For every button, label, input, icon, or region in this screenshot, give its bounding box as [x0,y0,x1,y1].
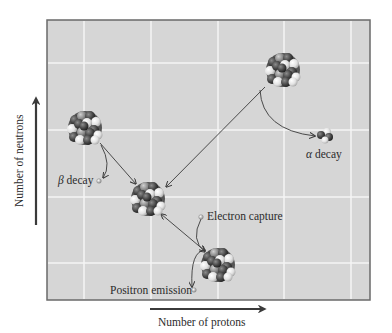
beta-decay-label: β decay [58,175,93,187]
electron-capture-label: Electron capture [207,211,283,223]
positron-emission-label: Positron emission [110,285,192,297]
x-axis-label: Number of protons [158,317,246,329]
diagram-canvas [0,0,392,333]
beta-decay-text: decay [64,174,94,186]
alpha-decay-label: α decay [306,149,342,161]
alpha-decay-text: decay [312,148,342,160]
positron-icon [192,288,197,293]
beta-particle-icon [97,179,102,184]
decay-diagram: β decay α decay Electron capture Positro… [0,0,392,333]
electron-icon [199,215,204,220]
y-axis-label: Number of neutrons [14,106,26,216]
